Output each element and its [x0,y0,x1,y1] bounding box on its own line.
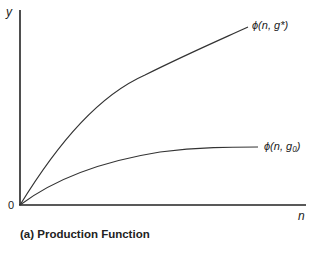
production-function-plot [0,0,314,257]
figure-caption: (a) Production Function [20,228,150,240]
curve-g-zero [20,147,258,205]
curve-g-star [20,27,248,205]
origin-label: 0 [8,199,14,211]
curve-lower-label: ϕ(n, g₀) [264,140,300,152]
curve-upper-label: ϕ(n, g*) [252,19,288,31]
x-axis-label: n [298,209,305,223]
y-axis-label: y [6,5,12,19]
